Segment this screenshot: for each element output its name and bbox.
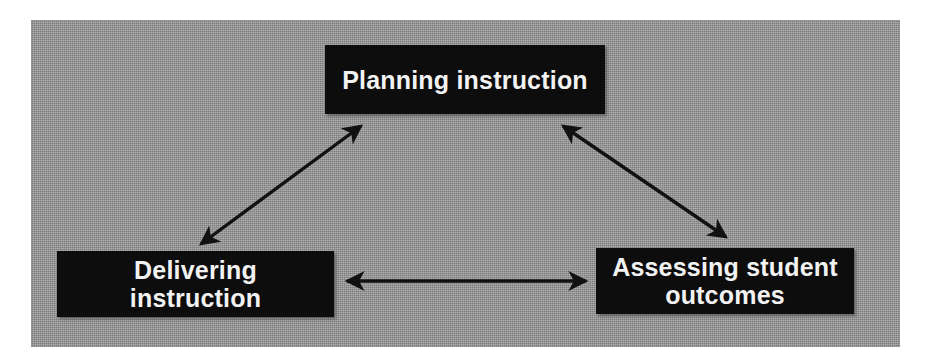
node-assessing-student-outcomes[interactable]: Assessing student outcomes bbox=[596, 248, 854, 314]
node-delivering-instruction[interactable]: Delivering instruction bbox=[57, 251, 334, 317]
diagram-canvas: Planning instruction Delivering instruct… bbox=[0, 0, 927, 362]
node-planning-label: Planning instruction bbox=[332, 66, 598, 94]
node-planning-instruction[interactable]: Planning instruction bbox=[325, 45, 605, 114]
node-delivering-label: Delivering instruction bbox=[57, 256, 334, 312]
node-assessing-label: Assessing student outcomes bbox=[602, 253, 848, 309]
